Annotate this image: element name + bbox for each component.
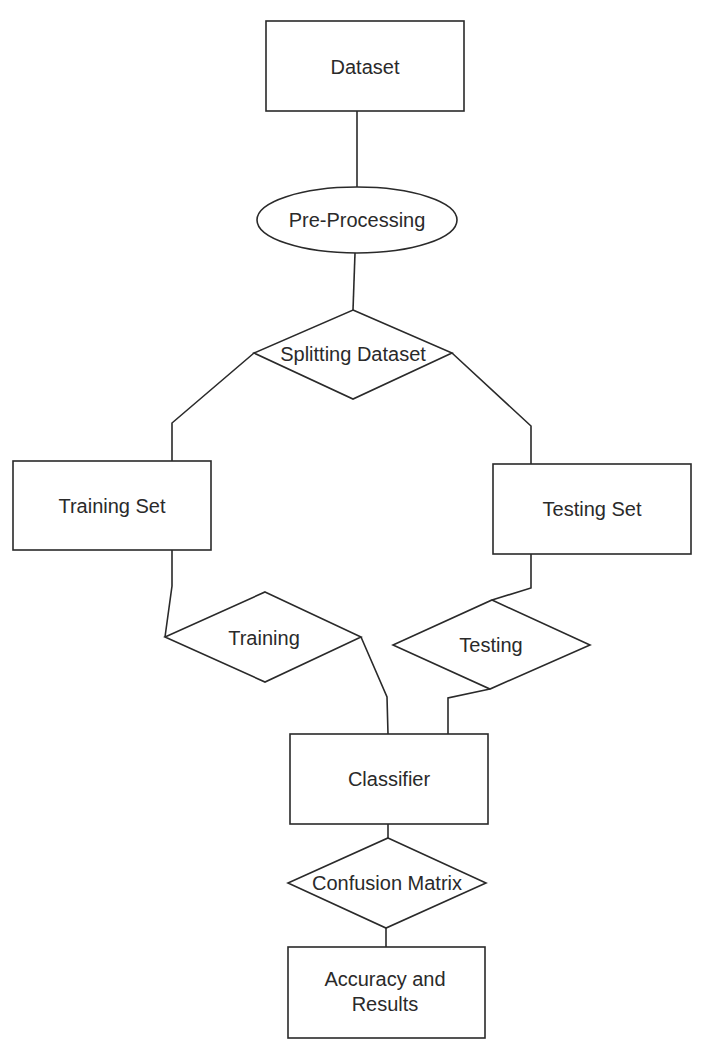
edge-testing-classifier <box>448 689 490 734</box>
edge-splitting-testing-set <box>452 353 531 464</box>
flowchart: Dataset Pre-Processing Splitting Dataset… <box>0 0 707 1062</box>
node-classifier-label: Classifier <box>348 768 431 790</box>
node-results: Accuracy and Results <box>288 947 485 1038</box>
node-confusion-matrix: Confusion Matrix <box>288 838 486 928</box>
node-preprocessing-label: Pre-Processing <box>289 209 426 231</box>
edge-testing-set-testing <box>492 554 531 600</box>
node-results-label-line-1: Accuracy and <box>324 968 445 990</box>
node-dataset-label: Dataset <box>331 56 400 78</box>
node-testing: Testing <box>393 600 590 689</box>
node-splitting: Splitting Dataset <box>254 310 452 399</box>
node-testing-set: Testing Set <box>493 464 691 554</box>
node-training-label: Training <box>228 627 300 649</box>
edge-training-set-training <box>165 550 172 637</box>
node-confusion-matrix-label: Confusion Matrix <box>312 872 462 894</box>
node-training: Training <box>165 592 361 682</box>
node-dataset: Dataset <box>266 21 464 111</box>
edge-splitting-training-set <box>172 353 254 461</box>
edge-preprocessing-splitting <box>353 253 355 310</box>
node-training-set: Training Set <box>13 461 211 550</box>
node-preprocessing: Pre-Processing <box>257 187 457 253</box>
edge-training-classifier <box>361 637 388 734</box>
node-classifier: Classifier <box>290 734 488 824</box>
node-testing-label: Testing <box>459 634 522 656</box>
node-training-set-label: Training Set <box>58 495 166 517</box>
node-testing-set-label: Testing Set <box>543 498 642 520</box>
node-results-label-line-2: Results <box>352 993 419 1015</box>
node-splitting-label: Splitting Dataset <box>280 343 426 365</box>
